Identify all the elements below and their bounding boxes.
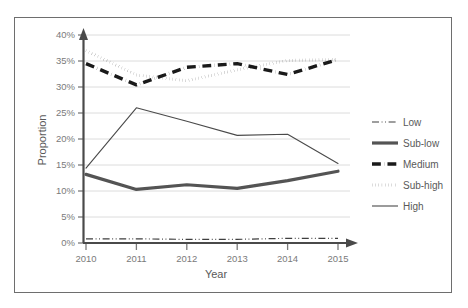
y-tick-label: 20% [56, 133, 76, 144]
series-line-low [86, 238, 338, 239]
data-series-layer [86, 51, 338, 240]
y-tick-label: 40% [56, 29, 76, 40]
x-tick-label: 2010 [75, 253, 96, 264]
x-tick-labels: 201020112012201320142015 [75, 253, 348, 264]
y-axis-title: Proportion [36, 115, 48, 166]
x-axis-title: Year [205, 268, 228, 280]
y-tick-labels: 0%5%10%15%20%25%30%35%40% [56, 29, 76, 248]
chart-legend: LowSub-lowMediumSub-highHigh [372, 117, 443, 212]
y-tick-label: 25% [56, 107, 76, 118]
y-tick-label: 0% [61, 237, 75, 248]
legend-label-low: Low [403, 117, 422, 128]
line-chart: 0%5%10%15%20%25%30%35%40% 20102011201220… [0, 0, 468, 308]
chart-svg: 0%5%10%15%20%25%30%35%40% 20102011201220… [0, 0, 468, 308]
x-tick-label: 2012 [176, 253, 197, 264]
legend-label-sub-high: Sub-high [403, 180, 443, 191]
series-line-medium [86, 59, 338, 84]
y-axis [79, 28, 88, 243]
y-tick-label: 10% [56, 185, 76, 196]
x-tick-label: 2015 [327, 253, 348, 264]
x-axis-ticks [86, 244, 338, 250]
y-tick-label: 30% [56, 81, 76, 92]
y-tick-label: 5% [61, 211, 75, 222]
x-tick-label: 2011 [126, 253, 146, 264]
legend-label-medium: Medium [403, 159, 439, 170]
y-tick-label: 15% [56, 159, 76, 170]
legend-label-high: High [403, 201, 424, 212]
x-tick-label: 2014 [277, 253, 298, 264]
legend-label-sub-low: Sub-low [403, 138, 440, 149]
series-line-sub-high [86, 51, 338, 81]
x-tick-label: 2013 [227, 253, 248, 264]
series-line-sub-low [86, 171, 338, 189]
series-line-high [86, 108, 338, 168]
y-tick-label: 35% [56, 55, 76, 66]
